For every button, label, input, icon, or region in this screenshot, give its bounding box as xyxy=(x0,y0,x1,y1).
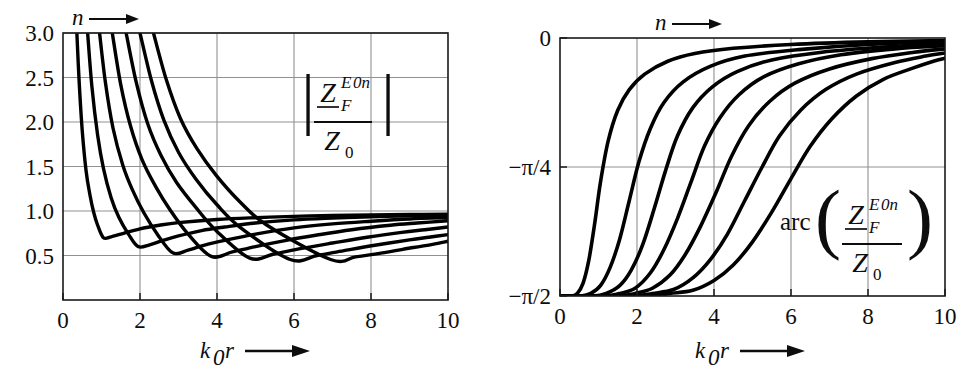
formula-bar-right: | xyxy=(381,61,395,137)
formula-numerator-subscript: F xyxy=(340,96,352,115)
formula-denominator-Z: Z xyxy=(852,247,868,278)
formula-prefix-arc: arc xyxy=(780,208,811,235)
x-axis-label-k-subscript: 0 xyxy=(213,345,225,370)
formula-paren-left: ( xyxy=(815,174,841,261)
x-axis-label-k: k xyxy=(695,338,706,363)
top-axis-arrow-icon xyxy=(672,19,722,29)
x-tick-label-phase: 0 xyxy=(554,304,566,329)
y-tick-label-magnitude: 0.5 xyxy=(25,244,54,269)
arrow-head xyxy=(709,19,722,29)
formula-numerator-superscript-mode: 0n xyxy=(353,73,370,92)
x-tick-label-magnitude: 8 xyxy=(365,308,377,333)
formula-denominator-Z: Z xyxy=(324,125,340,156)
top-axis-label-n: n xyxy=(655,10,667,35)
formula-paren-right: ) xyxy=(907,174,933,261)
y-tick-label-magnitude: 3.0 xyxy=(25,21,54,46)
chart-panel-magnitude: 0.51.01.52.02.53.00246810nk0r||ZFE0nZ0 xyxy=(0,0,483,374)
y-tick-marks-phase xyxy=(560,38,567,296)
formula-numerator-superscript-mode: 0n xyxy=(881,195,898,214)
x-axis-label-k: k xyxy=(200,338,211,363)
formula-phase: arc()ZFE0nZ0 xyxy=(780,174,933,284)
x-axis-arrow-icon xyxy=(740,345,805,357)
formula-numerator-Z: Z xyxy=(848,199,864,230)
x-axis-arrow-icon xyxy=(245,345,310,357)
formula-numerator-superscript: E xyxy=(340,73,352,92)
y-tick-label-magnitude: 1.0 xyxy=(25,199,54,224)
formula-numerator-superscript: E xyxy=(868,195,880,214)
x-tick-label-phase: 6 xyxy=(785,304,797,329)
x-tick-label-phase: 8 xyxy=(862,304,874,329)
magnitude-plot-svg: 0.51.01.52.02.53.00246810nk0r||ZFE0nZ0 xyxy=(0,0,483,374)
arrow-head xyxy=(787,345,805,357)
y-tick-label-magnitude: 2.0 xyxy=(25,110,54,135)
arrow-head xyxy=(126,14,139,24)
x-tick-label-magnitude: 2 xyxy=(134,308,146,333)
x-axis-label-k-subscript: 0 xyxy=(708,345,720,370)
top-axis-label-n: n xyxy=(72,5,84,30)
y-tick-label-phase: 0 xyxy=(540,26,552,51)
x-tick-label-magnitude: 10 xyxy=(437,308,460,333)
formula-numerator-subscript: F xyxy=(868,218,880,237)
x-tick-label-magnitude: 6 xyxy=(288,308,300,333)
y-tick-label-magnitude: 1.5 xyxy=(25,155,54,180)
chart-panel-phase: 0−π/4−π/20246810nk0rarc()ZFE0nZ0 xyxy=(483,0,966,374)
y-tick-label-magnitude: 2.5 xyxy=(25,66,54,91)
x-tick-label-phase: 10 xyxy=(934,304,957,329)
x-tick-label-magnitude: 0 xyxy=(57,308,69,333)
data-curve-n2 xyxy=(560,42,945,296)
phase-plot-svg: 0−π/4−π/20246810nk0rarc()ZFE0nZ0 xyxy=(483,0,966,374)
x-axis-label-r: r xyxy=(720,338,730,363)
formula-numerator-Z: Z xyxy=(320,77,336,108)
data-curve-n7 xyxy=(560,58,945,296)
arrow-head xyxy=(292,345,310,357)
data-curve-n3 xyxy=(560,44,945,297)
x-tick-marks-magnitude xyxy=(63,293,448,300)
figure-field-impedance: 0.51.01.52.02.53.00246810nk0r||ZFE0nZ0 0… xyxy=(0,0,966,374)
formula-denominator-subscript: 0 xyxy=(873,265,882,284)
x-tick-label-magnitude: 4 xyxy=(211,308,223,333)
formula-denominator-subscript: 0 xyxy=(345,143,354,162)
x-axis-label-r: r xyxy=(225,338,235,363)
curve-group-phase xyxy=(560,41,945,297)
top-axis-arrow-icon xyxy=(89,14,139,24)
formula-bar-left: | xyxy=(301,61,315,137)
x-tick-label-phase: 2 xyxy=(631,304,643,329)
y-tick-label-phase: −π/4 xyxy=(509,155,552,180)
y-tick-label-phase: −π/2 xyxy=(509,284,551,309)
x-tick-label-phase: 4 xyxy=(708,304,720,329)
data-curve-n6 xyxy=(560,53,945,296)
data-curve-n4 xyxy=(560,46,945,296)
formula-magnitude: ||ZFE0nZ0 xyxy=(301,61,395,162)
